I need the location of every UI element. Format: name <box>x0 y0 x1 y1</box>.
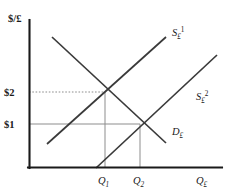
s2-superscript: 2 <box>205 90 209 98</box>
price-tick-label-1: $1 <box>4 119 15 130</box>
y-axis-label: $/£ <box>8 13 21 24</box>
supply-curve-1-label: S£1 <box>172 26 185 41</box>
q2-subscript: 2 <box>141 181 145 189</box>
q1-subscript: 1 <box>106 181 110 189</box>
x-axis-label: Q£ <box>196 175 208 189</box>
s1-subscript: £ <box>177 33 181 41</box>
supply-curve-1 <box>47 37 166 144</box>
supply-curve-2 <box>96 55 217 168</box>
demand-curve-label: D£ <box>171 126 184 140</box>
s1-superscript: 1 <box>181 26 185 34</box>
s2-subscript: £ <box>201 97 205 105</box>
quantity-tick-label-q1: Q1 <box>98 175 109 189</box>
supply-demand-figure: $/£ $2 $1 Q1 Q2 Q£ S£1 S£2 D£ <box>0 0 227 191</box>
price-tick-label-2: $2 <box>4 87 15 98</box>
d-subscript: £ <box>180 132 184 140</box>
quantity-tick-label-q2: Q2 <box>133 175 145 189</box>
supply-curve-2-label: S£2 <box>196 90 209 105</box>
chart-canvas: $/£ $2 $1 Q1 Q2 Q£ S£1 S£2 D£ <box>0 0 227 191</box>
x-axis-label-subscript: £ <box>204 181 208 189</box>
